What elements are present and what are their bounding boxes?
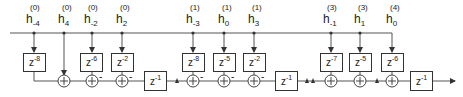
adder-1	[58, 75, 70, 87]
minus-sign: -	[231, 72, 234, 82]
delay-box-z-6: z-6	[381, 53, 404, 72]
adder-4	[187, 75, 199, 87]
unit-delay-box-1: z-1	[144, 71, 167, 91]
minus-sign: -	[261, 72, 264, 82]
adder-2	[86, 75, 98, 87]
minus-sign: -	[99, 72, 102, 82]
delay-box-z-8: z-8	[182, 53, 205, 72]
adder-6	[248, 75, 260, 87]
adder-5	[218, 75, 230, 87]
delay-box-z-2: z-2	[243, 53, 266, 72]
coef-label-h0-1: h0(1)	[218, 13, 229, 25]
unit-delay-box-2: z-1	[275, 71, 298, 91]
delay-box-z-6: z-6	[80, 53, 103, 72]
coef-label-h4-0: h4(0)	[58, 13, 69, 25]
delay-box-z-7: z-7	[320, 53, 343, 72]
coef-label-h-3-1: h-3(1)	[186, 13, 200, 25]
minus-sign: -	[200, 72, 203, 82]
coef-label-h3-1: h3(1)	[248, 13, 259, 25]
delay-box-z-5: z-5	[213, 53, 236, 72]
delay-box-z-8: z-8	[23, 53, 46, 72]
adder-3	[116, 75, 128, 87]
adder-8	[354, 75, 366, 87]
polyphase-filter-diagram: - - - - - h-4(0) h4(0) h-2(0) h2(0) h-3(…	[0, 0, 463, 97]
coef-label-h0-4: h0(4)	[386, 13, 397, 25]
adder-7	[325, 75, 337, 87]
coef-label-h-4-0: h-4(0)	[26, 13, 40, 25]
coef-label-h1-3: h1(3)	[354, 13, 365, 25]
delay-box-z-2: z-2	[111, 53, 134, 72]
coef-label-h2-0: h2(0)	[116, 13, 127, 25]
adder-9	[386, 75, 398, 87]
delay-box-z-5: z-5	[349, 53, 372, 72]
unit-delay-box-3: z-1	[410, 71, 433, 91]
minus-sign: -	[129, 72, 132, 82]
coef-label-h-1-3: h-1(3)	[323, 13, 337, 25]
coef-label-h-2-0: h-2(0)	[84, 13, 98, 25]
